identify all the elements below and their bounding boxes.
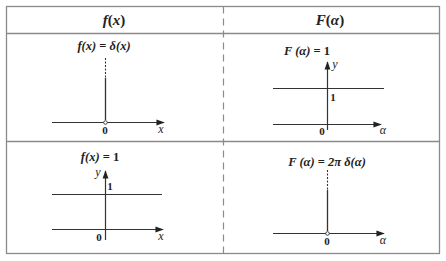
origin-label: 0 (324, 235, 330, 247)
cell-title: f(x) = δ(x) (77, 39, 130, 53)
fourier-pair-table: f(x) F(α) f(x) = δ(x) 0 x F (α) = 1 y 1 … (0, 0, 446, 261)
cell-constant-x: f(x) = 1 y 1 0 x (52, 150, 164, 243)
cell-title: F (α) = 2π δ(α) (287, 155, 366, 169)
header-F-of-alpha: F(α) (315, 12, 344, 29)
y-axis-label: y (331, 57, 338, 71)
cell-delta-alpha: F (α) = 2π δ(α) 0 α (273, 155, 387, 247)
x-axis-label: x (157, 122, 164, 136)
alpha-axis-label: α (380, 233, 387, 247)
alpha-axis-label: α (380, 123, 387, 137)
cell-delta-x: f(x) = δ(x) 0 x (52, 39, 164, 136)
table-frame (7, 7, 440, 254)
x-axis-label: x (157, 229, 164, 243)
y-axis-label: y (94, 165, 101, 179)
level-label: 1 (330, 91, 336, 103)
level-label: 1 (107, 180, 113, 192)
cell-title: f(x) = 1 (81, 150, 119, 164)
header-f-of-x: f(x) (103, 12, 126, 29)
origin-label: 0 (102, 124, 108, 136)
origin-label: 0 (319, 125, 325, 137)
cell-constant-alpha: F (α) = 1 y 1 0 α (273, 44, 387, 137)
cell-title: F (α) = 1 (283, 44, 330, 58)
origin-label: 0 (96, 231, 102, 243)
